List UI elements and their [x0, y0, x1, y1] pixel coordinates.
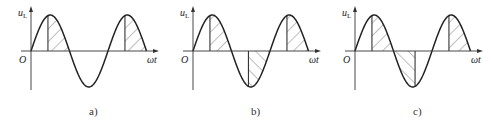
- y-axis-arrow-icon: [191, 6, 195, 12]
- y-axis-arrow-icon: [29, 6, 33, 12]
- panel-a: uLωtOa): [18, 6, 159, 118]
- origin-label: O: [343, 54, 350, 65]
- panel-c: uLωtOc): [342, 6, 483, 118]
- shaded-region: [372, 15, 394, 51]
- panel-b: uLωtOb): [180, 6, 321, 118]
- panel-caption: a): [89, 105, 98, 118]
- origin-label: O: [181, 54, 188, 65]
- y-axis-arrow-icon: [353, 6, 357, 12]
- x-axis-label: ωt: [471, 54, 481, 65]
- shaded-region: [248, 51, 270, 87]
- origin-label: O: [19, 54, 26, 65]
- x-axis-label: ωt: [309, 54, 319, 65]
- shaded-region: [287, 15, 309, 51]
- shaded-region: [125, 15, 147, 51]
- x-axis-arrow-icon: [477, 49, 483, 53]
- y-axis-label: uL: [180, 7, 189, 20]
- x-axis-arrow-icon: [153, 49, 159, 53]
- shaded-region: [394, 51, 416, 87]
- panel-caption: b): [251, 105, 261, 118]
- x-axis-arrow-icon: [315, 49, 321, 53]
- y-axis-label: uL: [18, 7, 27, 20]
- shaded-region: [48, 15, 70, 51]
- waveform-figure: uLωtOa)uLωtOb)uLωtOc): [0, 0, 491, 131]
- shaded-region: [449, 15, 471, 51]
- shaded-region: [210, 15, 232, 51]
- panel-caption: c): [413, 105, 422, 118]
- y-axis-label: uL: [342, 7, 351, 20]
- x-axis-label: ωt: [147, 54, 157, 65]
